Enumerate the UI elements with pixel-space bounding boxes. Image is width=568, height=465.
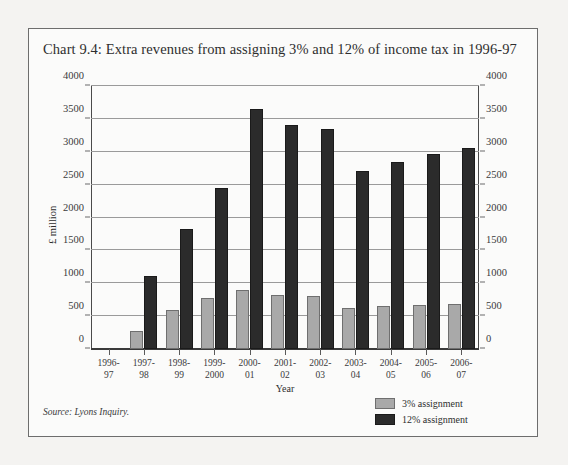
x-tick [197,349,232,355]
chart-legend: 3% assignment12% assignment [375,397,468,429]
x-tick-label: 1997-98 [126,358,161,381]
y-tick-mark [85,150,90,151]
bar [201,298,214,349]
x-tick-label-line: 2000- [232,358,267,370]
bar-group [232,86,267,349]
x-tick [303,349,338,355]
bar [377,306,390,349]
x-tick-label: 2006-07 [444,358,479,381]
bar-group [267,86,302,349]
bar [342,308,355,349]
bar [462,148,475,349]
y-tick-label: 1500 [486,234,507,245]
y-tick-mark [85,249,90,250]
y-tick-label: 2000 [63,201,84,212]
chart-title: Chart 9.4: Extra revenues from assigning… [43,41,529,58]
legend-item[interactable]: 3% assignment [375,397,468,410]
bar-group [91,86,126,349]
bar [166,310,179,349]
bar [285,125,298,349]
y-tick-mark [85,85,90,86]
x-tick-label-line: 07 [444,370,479,382]
x-tick-label: 2001-02 [267,358,302,381]
x-tick-label-line: 02 [267,370,302,382]
y-tick-label: 500 [486,300,502,311]
x-tick-label: 2003-04 [338,358,373,381]
bar-group [444,86,479,349]
y-tick-label: 3500 [486,102,507,113]
x-tick [91,349,126,355]
y-tick-label: 500 [68,300,84,311]
bar [236,290,249,349]
x-tick-label-line: 2003- [338,358,373,370]
x-tick [126,349,161,355]
y-tick-label: 0 [486,333,491,344]
x-tick-label-line: 2000 [197,370,232,382]
x-tick-label-line: 1999- [197,358,232,370]
y-tick-mark [85,117,90,118]
y-tick-mark [480,183,485,184]
x-tick-label-line: 1998- [162,358,197,370]
y-tick-label: 1500 [63,234,84,245]
bar-group [338,86,373,349]
legend-item[interactable]: 12% assignment [375,413,468,426]
y-tick-label: 1000 [63,267,84,278]
x-tick-label-line: 1997- [126,358,161,370]
y-tick-mark [85,315,90,316]
bar [448,304,461,349]
x-tick [232,349,267,355]
y-tick-mark [480,315,485,316]
x-tick [267,349,302,355]
y-tick-label: 3500 [63,102,84,113]
y-tick-label: 4000 [486,70,507,81]
bar [144,276,157,349]
x-tick [408,349,443,355]
x-tick-label: 1996-97 [91,358,126,381]
y-tick-mark [480,117,485,118]
y-tick-label: 2000 [486,201,507,212]
x-tick [338,349,373,355]
bar [271,295,284,349]
legend-label: 12% assignment [402,414,468,425]
x-tick-label-line: 04 [338,370,373,382]
chart-frame: Chart 9.4: Extra revenues from assigning… [28,28,538,437]
bar [215,188,228,349]
bar [250,109,263,349]
x-tick-label-line: 99 [162,370,197,382]
x-tick-label-line: 1996- [91,358,126,370]
bar [427,154,440,349]
y-tick-label: 2500 [486,168,507,179]
x-tick-label-line: 01 [232,370,267,382]
y-tick-mark [480,348,485,349]
y-tick-mark [85,282,90,283]
y-axis-label: £ million [47,206,58,244]
chart-page: Chart 9.4: Extra revenues from assigning… [0,0,568,465]
x-tick-label: 1999-2000 [197,358,232,381]
x-tick [373,349,408,355]
x-tick-label: 2004-05 [373,358,408,381]
x-axis-ticks [91,349,479,355]
x-axis-title: Year [91,383,479,394]
y-tick-label: 3000 [63,135,84,146]
y-tick-mark [85,183,90,184]
y-tick-mark [480,249,485,250]
x-tick-label-line: 98 [126,370,161,382]
y-tick-mark [85,216,90,217]
x-tick-label-line: 2002- [303,358,338,370]
y-tick-label: 0 [79,333,84,344]
bar-group [197,86,232,349]
legend-swatch [375,414,395,425]
x-tick-label-line: 05 [373,370,408,382]
x-axis-labels: 1996-971997-981998-991999-20002000-01200… [91,358,479,381]
x-tick-label-line: 2006- [444,358,479,370]
x-tick-label: 1998-99 [162,358,197,381]
y-tick-label: 1000 [486,267,507,278]
x-tick-label-line: 06 [408,370,443,382]
bar-group [303,86,338,349]
bar [413,305,426,349]
y-tick-label: 3000 [486,135,507,146]
x-tick-label-line: 97 [91,370,126,382]
x-tick [444,349,479,355]
bar-group [373,86,408,349]
y-tick-label: 2500 [63,168,84,179]
